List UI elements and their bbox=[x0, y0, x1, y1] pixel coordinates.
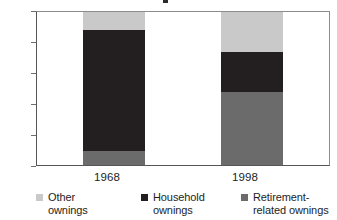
segment-household-ownings-1998[interactable] bbox=[221, 52, 283, 92]
legend-swatch-other-icon bbox=[36, 194, 43, 201]
bar-1998[interactable] bbox=[221, 12, 283, 165]
legend-item-household-ownings[interactable]: Household ownings bbox=[141, 191, 205, 216]
segment-other-ownings-1998[interactable] bbox=[221, 12, 283, 52]
legend-item-other-ownings[interactable]: Other ownings bbox=[36, 191, 88, 216]
legend-label-retirement-ownings: Retirement- related ownings bbox=[253, 191, 329, 216]
stacked-bar-chart: 100% 80% 60% 40% 20% 0% 1968 1998 bbox=[0, 0, 337, 220]
chart-legend: Other ownings Household ownings Retireme… bbox=[0, 191, 337, 220]
cropped-title-fragment bbox=[163, 0, 168, 3]
segment-household-ownings-1968[interactable] bbox=[83, 30, 145, 151]
segment-other-ownings-1968[interactable] bbox=[83, 12, 145, 30]
segment-retirement-ownings-1968[interactable] bbox=[83, 151, 145, 165]
x-tick-label-1998: 1998 bbox=[190, 171, 300, 184]
x-tick-label-1968: 1968 bbox=[52, 171, 162, 184]
segment-retirement-ownings-1998[interactable] bbox=[221, 92, 283, 165]
legend-label-other-ownings: Other ownings bbox=[48, 191, 88, 216]
legend-swatch-retirement-icon bbox=[241, 194, 248, 201]
plot-area bbox=[36, 11, 330, 166]
legend-label-household-ownings: Household ownings bbox=[153, 191, 205, 216]
bar-1968[interactable] bbox=[83, 12, 145, 165]
legend-item-retirement-ownings[interactable]: Retirement- related ownings bbox=[241, 191, 329, 216]
legend-swatch-household-icon bbox=[141, 194, 148, 201]
